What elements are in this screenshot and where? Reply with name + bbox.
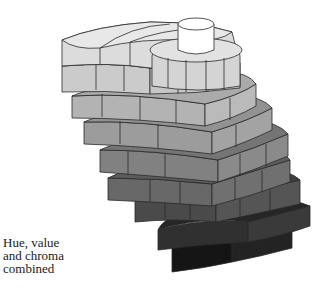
solid-tiers bbox=[62, 18, 310, 272]
figure-caption: Hue, value and chroma combined bbox=[3, 236, 64, 275]
core-cylinder bbox=[178, 18, 214, 54]
caption-line-3: combined bbox=[3, 262, 64, 275]
